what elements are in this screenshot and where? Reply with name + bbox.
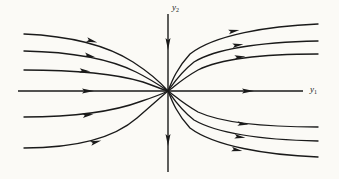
trajectory-lower-right-inner (168, 91, 318, 127)
trajectory-upper-right-inner (168, 54, 318, 91)
phase-portrait-canvas (0, 0, 339, 179)
trajectory-lower-left-inner (24, 91, 168, 117)
horizontal-axis-label: y1 (310, 85, 317, 94)
vertical-axis-label: y2 (172, 3, 179, 12)
trajectory-lower-right-middle (168, 91, 318, 141)
horizontal-axis-label-subscript: 1 (314, 89, 317, 95)
trajectory-upper-right-middle (168, 41, 318, 91)
vertical-axis-label-subscript: 2 (176, 7, 179, 13)
flow-arrow-upper-right-outer (228, 28, 240, 35)
trajectory-upper-left-inner (24, 70, 168, 91)
trajectory-upper-left-outer (24, 34, 168, 91)
phase-portrait-figure: y2 y1 (0, 0, 339, 179)
